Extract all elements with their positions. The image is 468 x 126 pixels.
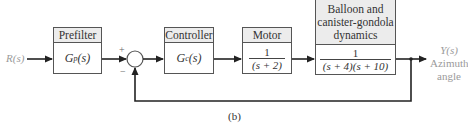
tf-symbol: G <box>177 51 186 66</box>
fraction: 1 (s + 2) <box>249 46 285 71</box>
title-line: dynamics <box>333 29 377 42</box>
numerator: 1 <box>262 46 272 58</box>
output-symbol: Y(s) <box>430 44 468 57</box>
output-description: Azimuth <box>430 57 468 70</box>
numerator: 1 <box>351 47 361 59</box>
controller-block: Controller Gc(s) <box>164 27 214 74</box>
fraction: 1 (s + 4)(s + 10) <box>320 47 392 72</box>
prefilter-title: Prefilter <box>54 28 101 43</box>
tf-symbol: G <box>65 51 74 66</box>
tf-argument: (s) <box>189 51 202 66</box>
figure-caption: (b) <box>228 110 241 122</box>
output-description: angle <box>430 70 468 83</box>
balloon-dynamics-block: Balloon and canister-gondola dynamics 1 … <box>315 0 396 75</box>
plus-sign: + <box>119 44 125 55</box>
balloon-transfer-function: 1 (s + 4)(s + 10) <box>316 45 395 74</box>
output-label: Y(s) Azimuth angle <box>430 44 468 83</box>
motor-transfer-function: 1 (s + 2) <box>243 43 291 73</box>
controller-transfer-function: Gc(s) <box>165 43 213 73</box>
prefilter-block: Prefilter Gp(s) <box>53 27 102 74</box>
input-label: R(s) <box>6 52 24 64</box>
tf-argument: (s) <box>78 51 91 66</box>
summing-junction <box>127 51 143 67</box>
denominator: (s + 4)(s + 10) <box>320 59 392 72</box>
denominator: (s + 2) <box>249 58 285 71</box>
motor-title: Motor <box>243 28 291 43</box>
title-line: Balloon and <box>328 3 384 16</box>
prefilter-transfer-function: Gp(s) <box>54 43 101 73</box>
controller-title: Controller <box>165 28 213 43</box>
title-line: canister-gondola <box>317 16 393 29</box>
balloon-title: Balloon and canister-gondola dynamics <box>316 0 395 45</box>
motor-block: Motor 1 (s + 2) <box>242 27 292 74</box>
minus-sign: − <box>120 66 126 77</box>
